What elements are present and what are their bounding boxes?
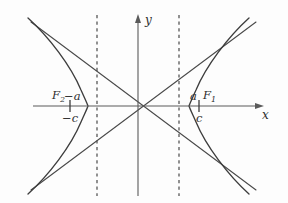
figure-canvas: y x F 2 −a −c a F 1 c xyxy=(0,0,288,203)
vertex-left-label: −a xyxy=(64,89,81,103)
vertex-right-label: a xyxy=(190,89,197,103)
y-axis-arrow-icon xyxy=(135,14,141,23)
y-axis-label: y xyxy=(144,13,152,27)
focus-right-subscript: 1 xyxy=(211,95,216,104)
hyperbola-diagram: y x F 2 −a −c a F 1 c xyxy=(0,0,288,203)
x-axis-label: x xyxy=(262,108,269,122)
focus-left-value-label: −c xyxy=(62,111,79,125)
focus-right-value-label: c xyxy=(196,111,203,125)
